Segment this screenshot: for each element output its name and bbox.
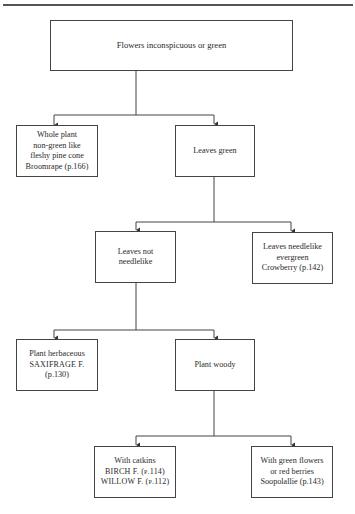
node-leaves-not-needlelike: Leaves not needlelike — [95, 231, 176, 283]
node-text: WILLOW F. (p.112) — [101, 477, 170, 488]
node-text: Whole plant — [37, 130, 77, 141]
node-text: Leaves not — [118, 247, 154, 258]
node-plant-herbaceous: Plant herbaceous SAXIFRAGE F. (p.130) — [16, 339, 98, 391]
node-whole-plant: Whole plant non-green like fleshy pine c… — [16, 125, 98, 177]
node-text: needlelike — [119, 257, 153, 268]
node-text: Leaves needlelike — [263, 242, 322, 253]
node-text: BIRCH F. (p.114) — [105, 467, 165, 478]
node-text: SAXIFRAGE F. — [29, 360, 84, 371]
node-text: With green flowers — [261, 456, 324, 467]
node-root: Flowers inconspicuous or green — [50, 20, 293, 71]
node-text: non-green like — [33, 141, 81, 152]
node-text: Leaves green — [193, 146, 236, 157]
node-leaves-green: Leaves green — [175, 125, 255, 177]
node-text: or red berries — [270, 467, 314, 478]
node-text: Flowers inconspicuous or green — [117, 40, 227, 51]
node-text: Plant woody — [194, 360, 235, 371]
node-text: (p.130) — [45, 370, 69, 381]
node-text: Soopolallie (p.143) — [260, 477, 323, 488]
node-text: Broomrape (p.166) — [26, 162, 89, 173]
node-text: Crowberry (p.142) — [262, 263, 323, 274]
node-plant-woody: Plant woody — [175, 339, 255, 391]
node-text: evergreen — [276, 253, 308, 264]
node-text: With catkins — [114, 456, 155, 467]
node-text: fleshy pine cone — [30, 151, 84, 162]
node-green-flowers: With green flowers or red berries Soopol… — [251, 446, 333, 498]
node-text: Plant herbaceous — [29, 349, 85, 360]
node-with-catkins: With catkins BIRCH F. (p.114) WILLOW F. … — [94, 446, 176, 498]
node-leaves-needlelike: Leaves needlelike evergreen Crowberry (p… — [252, 232, 333, 284]
